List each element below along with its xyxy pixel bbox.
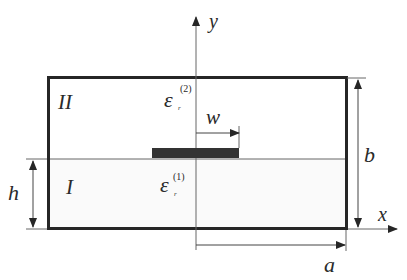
epsilon-subscript: r xyxy=(178,104,181,112)
b-dimension-label: b xyxy=(364,142,375,167)
epsilon-subscript: r xyxy=(174,190,177,198)
a-dimension-label: a xyxy=(324,252,335,277)
x-axis-label: x xyxy=(377,203,387,225)
epsilon-superscript: (2) xyxy=(180,83,192,95)
microstrip-diagram: y x II I ε r (2) ε r (1) w b h a xyxy=(0,0,407,280)
region-i-label: I xyxy=(65,175,74,199)
substrate-region xyxy=(48,159,346,228)
epsilon-symbol: ε xyxy=(160,172,169,197)
conductor-strip xyxy=(152,148,239,158)
h-dimension-label: h xyxy=(8,180,19,205)
y-axis-label: y xyxy=(207,10,218,33)
epsilon-symbol: ε xyxy=(164,87,173,112)
epsilon-superscript: (1) xyxy=(173,171,185,183)
permittivity-upper-label: ε r (2) xyxy=(164,83,192,112)
w-dimension-label: w xyxy=(206,105,220,129)
region-ii-label: II xyxy=(57,90,73,114)
